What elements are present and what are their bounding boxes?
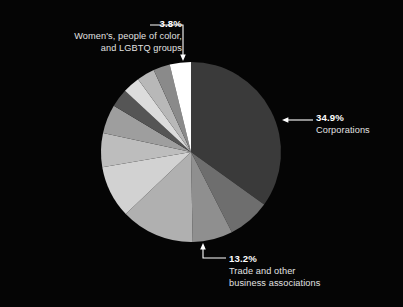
callout-corporations-percent: 34.9%: [316, 112, 402, 124]
pie-slices-group: [101, 62, 281, 242]
callout-women-percent: 3.8%: [14, 18, 182, 30]
leader-line-trade: [203, 249, 226, 258]
callout-corporations-line1: Corporations: [316, 124, 402, 136]
callout-trade-line2: business associations: [229, 277, 401, 289]
callout-trade-percent: 13.2%: [229, 253, 401, 265]
callout-trade-associations: 13.2% Trade and other business associati…: [229, 253, 401, 290]
callout-women-poc-lgbtq: 3.8% Women's, people of color, and LGBTQ…: [14, 18, 182, 55]
callout-women-line2: and LGBTQ groups: [14, 42, 182, 54]
leader-arrow-women: [180, 55, 186, 61]
callout-corporations: 34.9% Corporations: [316, 112, 402, 136]
leader-arrow-corporations: [282, 117, 288, 123]
leader-arrow-trade: [200, 243, 206, 249]
chart-root: 3.8% Women's, people of color, and LGBTQ…: [0, 0, 403, 307]
callout-trade-line1: Trade and other: [229, 265, 401, 277]
callout-women-line1: Women's, people of color,: [14, 30, 182, 42]
